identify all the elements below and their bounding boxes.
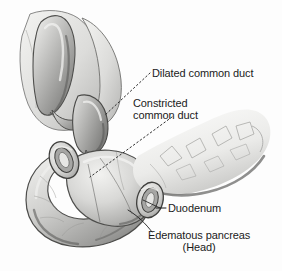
label-constricted-common-duct: Constricted common duct — [133, 98, 198, 121]
label-pancreas-line1: Edematous pancreas — [148, 229, 250, 241]
label-pancreas-line2: (Head) — [148, 242, 250, 254]
label-edematous-pancreas: Edematous pancreas (Head) — [148, 230, 250, 253]
label-constricted-line1: Constricted — [133, 97, 188, 109]
label-dilated-common-duct: Dilated common duct — [152, 68, 253, 80]
anatomical-figure: Dilated common duct Constricted common d… — [0, 0, 282, 271]
label-constricted-line2: common duct — [133, 109, 198, 121]
label-duodenum: Duodenum — [168, 203, 221, 215]
